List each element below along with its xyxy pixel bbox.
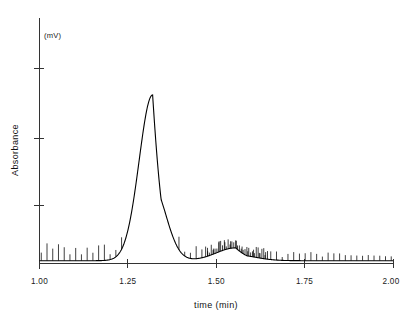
x-tick-label-1: 1.25	[119, 277, 136, 286]
x-tick-label-2: 1.50	[208, 277, 225, 286]
plot-canvas: 1.00 1.25 1.50 1.75 2.00 time (min) Abso…	[0, 0, 410, 323]
x-tick-label-4: 2.00	[382, 277, 399, 286]
y-axis-title: Absorbance	[10, 124, 20, 176]
chromatogram-figure: 1.00 1.25 1.50 1.75 2.00 time (min) Abso…	[0, 0, 410, 323]
x-tick-label-0: 1.00	[31, 277, 48, 286]
baseline-noise	[41, 237, 391, 261]
chromatogram-trace	[40, 95, 394, 261]
x-axis-title: time (min)	[194, 300, 238, 310]
y-axis-unit-label: (mV)	[44, 31, 62, 40]
x-tick-label-3: 1.75	[296, 277, 313, 286]
